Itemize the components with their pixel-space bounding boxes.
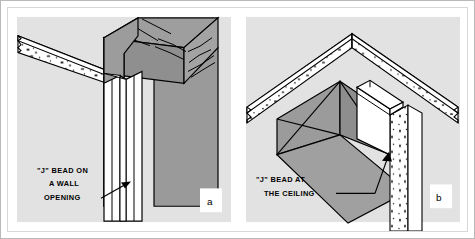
panel-b-label: b [436, 192, 442, 203]
panel-a-label: a [207, 196, 213, 207]
panel-a-caption-line-1: "J" BEAD ON [37, 166, 88, 175]
panel-a-caption-line-3: OPENING [44, 193, 81, 202]
wall-drywall-strip [390, 105, 422, 231]
panel-b: "J" BEAD AT THE CEILING b [240, 8, 469, 231]
panel-b-illustration: "J" BEAD AT THE CEILING b [240, 8, 469, 231]
panel-b-caption-line-1: "J" BEAD AT [256, 175, 305, 184]
panel-a: "J" BEAD ON A WALL OPENING a [8, 8, 240, 231]
panel-a-illustration: "J" BEAD ON A WALL OPENING a [8, 8, 240, 231]
figure-container: "J" BEAD ON A WALL OPENING a [0, 0, 475, 239]
panel-a-caption-line-2: A WALL [49, 179, 79, 188]
panel-b-caption-line-2: THE CEILING [264, 189, 315, 198]
figure-inner-frame: "J" BEAD ON A WALL OPENING a [7, 7, 468, 232]
panel-a-label-badge: a [200, 188, 222, 212]
panel-b-label-badge: b [430, 184, 452, 208]
